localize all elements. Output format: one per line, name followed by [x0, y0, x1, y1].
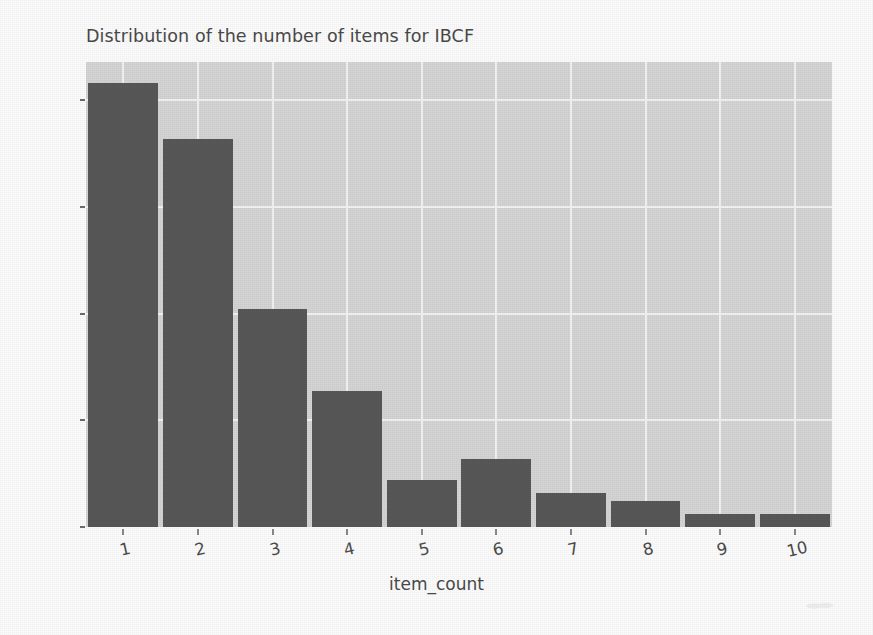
y-tick-mark: [80, 313, 85, 315]
scan-artifact: [806, 600, 834, 612]
x-tick-mark: [794, 529, 796, 535]
gridline-vertical: [794, 62, 796, 527]
y-tick-mark: [80, 419, 85, 421]
bar: [461, 459, 531, 527]
x-tick-label: 2: [193, 539, 208, 560]
bar: [238, 309, 308, 527]
bar: [536, 493, 606, 527]
x-tick-label: 1: [118, 539, 133, 560]
bar: [387, 480, 457, 527]
x-tick-mark: [272, 529, 274, 535]
gridline-vertical: [570, 62, 572, 527]
bar: [685, 514, 755, 527]
x-axis-label: item_count: [0, 574, 873, 594]
x-tick-mark: [495, 529, 497, 535]
plot-area: [86, 62, 832, 527]
gridline-vertical: [495, 62, 497, 527]
bar: [88, 83, 158, 527]
y-tick-mark: [80, 206, 85, 208]
bar: [611, 501, 681, 527]
x-tick-label: 6: [491, 539, 506, 560]
x-tick-mark: [197, 529, 199, 535]
gridline-vertical: [719, 62, 721, 527]
chart-title: Distribution of the number of items for …: [86, 26, 474, 46]
x-tick-mark: [719, 529, 721, 535]
x-tick-mark: [122, 529, 124, 535]
bar: [312, 391, 382, 528]
y-tick-mark: [80, 526, 85, 528]
x-tick-label: 3: [267, 539, 282, 560]
gridline-vertical: [421, 62, 423, 527]
x-tick-label: 10: [784, 538, 809, 561]
gridline-vertical: [645, 62, 647, 527]
x-tick-label: 5: [417, 539, 432, 560]
x-tick-mark: [645, 529, 647, 535]
bar: [163, 139, 233, 527]
x-tick-label: 9: [715, 539, 730, 560]
y-tick-mark: [80, 99, 85, 101]
bar: [760, 514, 830, 527]
x-tick-label: 7: [566, 539, 581, 560]
x-tick-label: 8: [640, 539, 655, 560]
x-tick-mark: [421, 529, 423, 535]
chart-figure: Distribution of the number of items for …: [0, 0, 873, 635]
x-tick-label: 4: [342, 539, 357, 560]
x-tick-mark: [570, 529, 572, 535]
x-tick-mark: [346, 529, 348, 535]
